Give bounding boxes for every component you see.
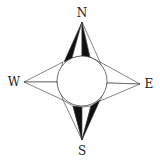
label-south: S: [78, 144, 86, 158]
label-west: W: [8, 75, 21, 89]
label-east: E: [145, 77, 154, 91]
label-north: N: [77, 6, 88, 20]
center-circle: [57, 56, 107, 106]
compass-rose: N S W E: [0, 0, 160, 164]
